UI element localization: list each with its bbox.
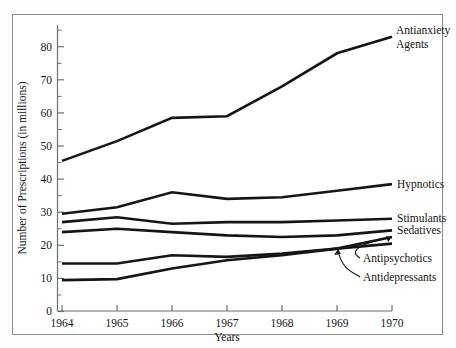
series-label-antidepressants: Antidepressants <box>363 271 437 284</box>
line-chart: 80 70 60 50 40 30 20 10 0 1964 1965 1966… <box>0 0 456 348</box>
leader-antidepressants <box>334 249 360 277</box>
series-line-antianxiety-agents <box>62 37 392 161</box>
series-label-antianxiety-agents-line1: Antianxiety <box>396 24 451 37</box>
series-label-antianxiety-agents-line2: Agents <box>396 38 429 51</box>
x-tick-label-1967: 1967 <box>216 317 239 329</box>
x-tick-label-1965: 1965 <box>106 317 129 329</box>
series-label-antipsychotics: Antipsychotics <box>363 252 433 265</box>
y-tick-label-50: 50 <box>41 140 53 152</box>
x-axis-ticks <box>62 305 392 311</box>
y-tick-label-40: 40 <box>41 173 53 185</box>
x-tick-label-1966: 1966 <box>161 317 184 329</box>
x-tick-label-1969: 1969 <box>326 317 349 329</box>
series-label-hypnotics: Hypnotics <box>397 178 445 191</box>
series-line-stimulants <box>62 217 392 224</box>
x-tick-label-1968: 1968 <box>271 317 294 329</box>
x-axis-title: Years <box>214 331 240 343</box>
series-line-hypnotics <box>62 184 392 214</box>
series-label-stimulants: Stimulants <box>397 212 447 224</box>
figure-container: 80 70 60 50 40 30 20 10 0 1964 1965 1966… <box>0 0 456 348</box>
y-tick-label-70: 70 <box>41 74 53 86</box>
y-tick-label-60: 60 <box>41 107 53 119</box>
x-tick-label-1970: 1970 <box>381 317 404 329</box>
series-label-sedatives: Sedatives <box>397 224 442 236</box>
y-tick-label-10: 10 <box>41 272 53 284</box>
y-tick-label-0: 0 <box>46 305 52 317</box>
x-tick-label-1964: 1964 <box>51 317 74 329</box>
y-tick-label-80: 80 <box>41 41 53 53</box>
y-axis-title: Number of Prescriptions (in millions) <box>16 81 29 254</box>
y-axis-tick-labels: 80 70 60 50 40 30 20 10 0 <box>41 41 53 317</box>
series-line-sedatives <box>62 229 392 237</box>
y-axis-major-ticks <box>58 47 65 312</box>
y-tick-label-20: 20 <box>41 239 53 251</box>
y-tick-label-30: 30 <box>41 206 53 218</box>
x-axis-tick-labels: 1964 1965 1966 1967 1968 1969 1970 <box>51 317 404 329</box>
